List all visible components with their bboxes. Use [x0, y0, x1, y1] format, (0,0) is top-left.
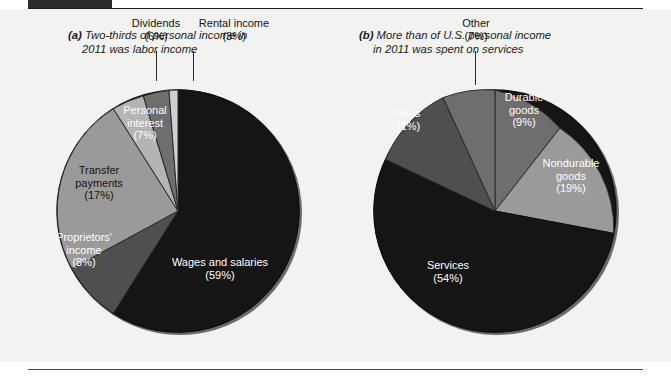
label-durable-goods: Durable goods (9%) [488, 91, 560, 129]
figure-number-badge [28, 0, 112, 8]
label-nondurable-goods: Nondurable goods (19%) [523, 157, 619, 195]
figure-title: Where U.S. Personal Income Comes From an… [124, 0, 644, 7]
panel-a-tag: (a) [68, 29, 82, 41]
panel-a-caption-line2: 2011 was labor income [68, 43, 333, 57]
leader-line-other [475, 51, 476, 85]
panel-b-tag: (b) [359, 29, 373, 41]
label-rental-income: Rental income (3%) [186, 17, 282, 42]
figure-bottom-divider [28, 369, 643, 370]
label-dividends: Dividends (6%) [116, 17, 196, 42]
figure-page: Where U.S. Personal Income Comes From an… [0, 0, 671, 377]
panel-a: (a) Two-thirds of personal income in 201… [18, 9, 338, 361]
label-other: Other (7%) [443, 17, 509, 42]
label-proprietors-income: Proprietors' income (8%) [43, 231, 125, 269]
figure-body: (a) Two-thirds of personal income in 201… [0, 9, 671, 361]
label-personal-interest: Personal interest (7%) [111, 104, 179, 142]
label-transfer-payments: Transfer payments (17%) [58, 164, 140, 202]
panel-b-caption-line2: in 2011 was spent on services [359, 43, 649, 57]
label-wages-and-salaries: Wages and salaries (59%) [155, 256, 285, 281]
label-services: Services (54%) [403, 259, 493, 284]
leader-line-dividends [156, 51, 157, 81]
panel-b: (b) More than of U.S. personal income in… [345, 9, 665, 361]
leader-line-rental-income [193, 51, 194, 81]
label-taxes: Taxes (11%) [373, 107, 439, 132]
